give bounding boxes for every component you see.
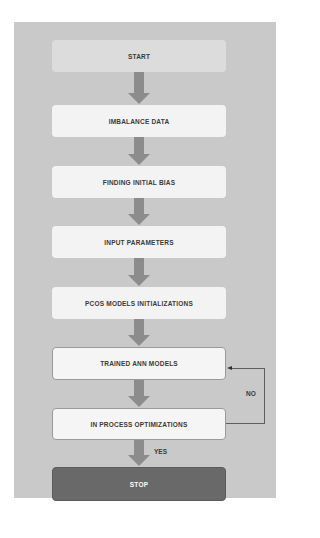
arrow-left-icon [227, 366, 232, 370]
node-pcos-models-initializations: PCOS MODELS INITIALIZATIONS [52, 287, 226, 319]
arrow-trained-to-optim [128, 380, 150, 408]
node-imbalance-data: IMBALANCE DATA [52, 105, 226, 137]
node-label: PCOS MODELS INITIALIZATIONS [85, 300, 193, 307]
feedback-line-bottom [226, 423, 265, 424]
node-finding-initial-bias: FINDING INITIAL BIAS [52, 166, 226, 198]
node-label: STOP [130, 481, 148, 488]
node-label: INPUT PARAMETERS [104, 239, 174, 246]
arrow-down-icon [128, 93, 150, 104]
node-label: FINDING INITIAL BIAS [103, 179, 176, 186]
arrow-params-to-pcos [128, 258, 150, 287]
node-label: IMBALANCE DATA [109, 118, 170, 125]
no-label: NO [246, 390, 256, 397]
yes-label: YES [154, 448, 167, 455]
arrow-imbalance-to-bias [128, 137, 150, 166]
node-label: TRAINED ANN MODELS [100, 360, 178, 367]
arrow-down-icon [128, 455, 150, 466]
node-label: IN PROCESS OPTIMIZATIONS [90, 421, 187, 428]
arrow-start-to-imbalance [128, 72, 150, 105]
arrow-down-icon [128, 335, 150, 346]
node-label: START [128, 53, 150, 60]
node-trained-ann-models: TRAINED ANN MODELS [52, 347, 226, 380]
arrow-down-icon [128, 214, 150, 225]
arrow-down-icon [128, 396, 150, 407]
arrow-bias-to-params [128, 198, 150, 226]
node-input-parameters: INPUT PARAMETERS [52, 226, 226, 258]
node-stop: STOP [52, 467, 226, 501]
feedback-line-vertical [264, 368, 265, 424]
feedback-line-top [231, 368, 265, 369]
node-start: START [52, 40, 226, 72]
arrow-pcos-to-trained [128, 319, 150, 347]
arrow-optim-to-stop [128, 440, 150, 467]
arrow-down-icon [128, 275, 150, 286]
arrow-down-icon [128, 154, 150, 165]
node-in-process-optimizations: IN PROCESS OPTIMIZATIONS [52, 408, 226, 440]
